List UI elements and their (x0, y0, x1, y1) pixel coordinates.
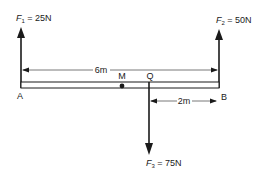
point-label-q: Q (146, 71, 153, 81)
force-label-f3: F3 = 75N (146, 158, 182, 169)
arrowhead-down-icon (145, 143, 153, 155)
point-label-b: B (221, 92, 227, 102)
force-value: = 75N (155, 158, 182, 168)
point-label-m: M (118, 71, 126, 81)
beam-diagram: 6m 2m M Q A B F1 = 25N F2 = 50N F3 = 75N (0, 0, 268, 180)
force-value: = 50N (225, 15, 252, 25)
point-label-a: A (17, 91, 23, 101)
arrowhead-right-icon (210, 99, 217, 104)
force-arrow-f2 (215, 29, 223, 88)
centre-of-mass-dot (120, 84, 125, 89)
arrowhead-right-icon (211, 68, 218, 73)
force-label-f1: F1 = 25N (16, 13, 52, 24)
arrowhead-left-icon (22, 68, 29, 73)
dimension-label-6m: 6m (95, 65, 108, 75)
dimension-label-2m: 2m (178, 96, 191, 106)
force-label-f2: F2 = 50N (216, 15, 252, 26)
force-value: = 25N (25, 13, 52, 23)
force-arrow-f1 (17, 27, 25, 88)
arrowhead-left-icon (150, 99, 157, 104)
arrowhead-up-icon (17, 27, 25, 38)
force-arrow-f3 (145, 82, 153, 155)
arrowhead-up-icon (215, 29, 223, 40)
